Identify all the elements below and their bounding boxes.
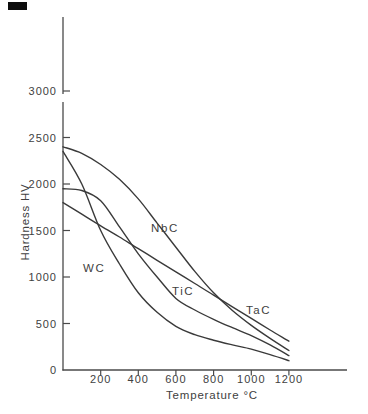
- y-tick-label: 0: [50, 364, 57, 376]
- series-label-tac: TaC: [246, 304, 271, 316]
- y-tick-label: 1000: [29, 271, 57, 283]
- scan-artifact-mark: [8, 2, 27, 10]
- y-tick-label: 3000: [29, 85, 57, 97]
- x-tick-label: 1200: [275, 373, 303, 385]
- y-tick-label: 2500: [29, 132, 57, 144]
- y-tick-group: 050010001500200025003000: [29, 85, 70, 376]
- y-tick-label: 500: [36, 318, 57, 330]
- x-tick-label: 600: [165, 373, 186, 385]
- x-tick-label: 1000: [237, 373, 265, 385]
- series-label-nbc: NbC: [151, 222, 179, 234]
- curves-group: [63, 147, 289, 361]
- y-axis-label: Hardness HV: [19, 183, 31, 260]
- x-axis-label: Temperature °C: [166, 389, 258, 401]
- hot-hardness-figure: 20040060080010001200 0500100015002000250…: [0, 0, 368, 414]
- y-tick-label: 2000: [29, 178, 57, 190]
- x-tick-label: 200: [90, 373, 111, 385]
- curve-wc: [63, 151, 289, 360]
- series-label-tic: TiC: [172, 285, 194, 297]
- chart-svg: 20040060080010001200 0500100015002000250…: [0, 0, 368, 414]
- x-tick-group: 20040060080010001200: [90, 370, 303, 385]
- x-tick-label: 800: [203, 373, 224, 385]
- x-tick-label: 400: [128, 373, 149, 385]
- series-label-wc: WC: [83, 262, 105, 274]
- y-tick-label: 1500: [29, 225, 57, 237]
